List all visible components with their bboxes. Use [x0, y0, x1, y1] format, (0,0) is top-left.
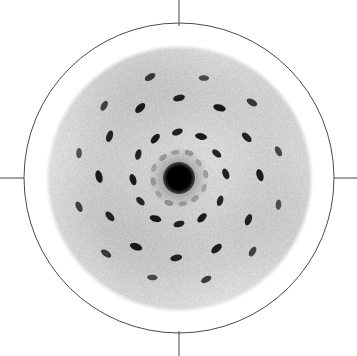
diffraction-spot — [76, 148, 82, 159]
diffraction-spot — [195, 132, 208, 141]
diffraction-spot — [104, 210, 117, 223]
diffraction-spot — [199, 75, 210, 81]
diffraction-spot — [212, 103, 226, 113]
diffraction-spot — [133, 101, 147, 115]
beam-stop-disc — [163, 162, 195, 194]
diffraction-spot — [247, 245, 258, 257]
diffraction-spot — [216, 195, 225, 207]
diffraction-spot — [100, 248, 113, 260]
diffraction-spot — [221, 168, 231, 181]
diffraction-spot — [243, 213, 253, 227]
diffraction-spot — [210, 242, 224, 255]
diffraction-spot — [211, 148, 223, 160]
diffraction-spot — [128, 173, 138, 186]
diffraction-spot — [129, 241, 143, 252]
diffraction-spot — [105, 130, 115, 143]
diffraction-spot — [143, 71, 156, 82]
diffraction-spot — [149, 214, 162, 223]
diffraction-spot — [240, 131, 253, 144]
central-beam-stop — [163, 162, 195, 194]
diffraction-spot — [134, 149, 142, 161]
diffraction-spot — [170, 254, 183, 263]
diffraction-spot — [147, 274, 158, 280]
diffraction-spot — [173, 219, 185, 228]
diffraction-spot — [245, 97, 258, 108]
diffraction-spot — [196, 212, 209, 225]
diffraction-figure — [0, 0, 357, 356]
diffraction-spot — [172, 93, 185, 102]
diffraction-spot — [255, 168, 265, 182]
diffraction-spot — [135, 195, 147, 207]
diffraction-spot — [171, 127, 184, 137]
diffraction-spot — [94, 170, 104, 184]
diffraction-spot — [275, 199, 281, 210]
diffraction-pattern-overlay — [0, 0, 357, 356]
diffraction-spot — [99, 100, 110, 112]
diffraction-spot — [200, 274, 213, 285]
diffraction-spot — [74, 200, 84, 213]
diffraction-spot — [149, 132, 162, 145]
diffraction-spot — [273, 145, 283, 157]
